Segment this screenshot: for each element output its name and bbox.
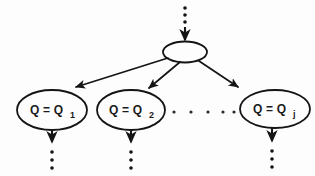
child-node-1-group: Q = Q 1 [17,90,87,170]
root-incoming-arrow [183,6,187,40]
edge-root-to-child-2 [149,62,180,88]
child-node-j-dot-2 [270,157,274,161]
child-node-2-dot-1 [129,150,133,154]
horizontal-ellipsis [172,110,235,113]
diagram-canvas: Q = Q 1 Q = Q 2 Q = Q [0,0,315,176]
child-node-1-dot-1 [50,150,54,154]
child-node-2-label: Q = Q [109,103,142,117]
child-node-1-label: Q = Q [30,103,63,117]
root-incoming-dot-3 [183,20,187,24]
root-incoming-dot-2 [183,13,187,17]
child-node-j-group: Q = Q j [240,90,310,169]
horizontal-ellipsis-dot-5 [232,110,235,113]
child-node-j-subscript: j [292,109,296,119]
child-node-j-dot-3 [270,165,274,169]
search-tree-diagram: Q = Q 1 Q = Q 2 Q = Q [0,0,315,176]
child-node-j-label: Q = Q [253,102,286,116]
child-node-2-group: Q = Q 2 [97,90,165,170]
child-node-2-dot-2 [129,158,133,162]
child-node-1-subscript: 1 [70,110,75,120]
horizontal-ellipsis-dot-3 [206,110,209,113]
root-incoming-dot-1 [183,6,187,10]
horizontal-ellipsis-dot-2 [189,110,192,113]
child-node-1-dot-2 [50,158,54,162]
child-node-2-dot-3 [129,166,133,170]
horizontal-ellipsis-dot-1 [172,110,175,113]
horizontal-ellipsis-dot-4 [221,110,224,113]
child-node-1-dot-3 [50,166,54,170]
child-node-j-dot-1 [270,149,274,153]
edge-root-to-child-j [199,61,238,87]
child-node-2-subscript: 2 [149,110,154,120]
root-node[interactable] [163,42,207,63]
